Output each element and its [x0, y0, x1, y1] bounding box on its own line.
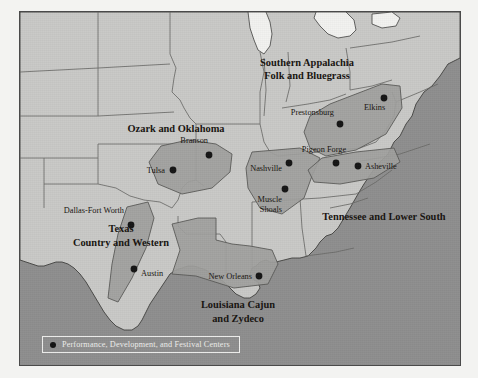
city-dot-branson[interactable] — [206, 152, 213, 159]
region-label-tennessee-lower-south: Tennessee and Lower South — [322, 211, 445, 222]
region-label-louisiana-cajun-2: and Zydeco — [212, 313, 264, 324]
city-label-muscle-shoals-2: Shoals — [260, 205, 282, 214]
map-plate: Branson Tulsa Dallas-Fort Worth Austin N… — [19, 11, 461, 366]
region-label-texas-country-2: Country and Western — [73, 237, 169, 248]
city-label-muscle-shoals-1: Muscle — [258, 195, 283, 204]
city-label-pigeon-forge: Pigeon Forge — [302, 145, 347, 154]
city-dot-muscle-shoals[interactable] — [282, 186, 289, 193]
city-dot-elkins[interactable] — [381, 95, 388, 102]
region-label-southern-appalachia-1: Southern Appalachia — [260, 57, 355, 68]
region-label-ozark-oklahoma: Ozark and Oklahoma — [128, 123, 226, 134]
region-label-texas-country-1: Texas — [108, 223, 133, 234]
map-graphic: Branson Tulsa Dallas-Fort Worth Austin N… — [20, 12, 460, 365]
legend-label: Performance, Development, and Festival C… — [62, 340, 230, 349]
city-dot-prestonsburg[interactable] — [337, 121, 344, 128]
city-dot-nashville[interactable] — [286, 160, 293, 167]
region-label-louisiana-cajun-1: Louisiana Cajun — [201, 299, 275, 310]
city-dot-new-orleans[interactable] — [256, 273, 263, 280]
city-dot-asheville[interactable] — [355, 163, 362, 170]
region-label-southern-appalachia-2: Folk and Bluegrass — [264, 70, 349, 81]
city-dot-austin[interactable] — [131, 266, 138, 273]
city-label-austin: Austin — [141, 269, 164, 278]
city-label-prestonsburg: Prestonsburg — [291, 108, 334, 117]
figure-page: Branson Tulsa Dallas-Fort Worth Austin N… — [0, 0, 478, 378]
city-dot-tulsa[interactable] — [170, 167, 177, 174]
lake-ontario — [372, 12, 400, 28]
legend: Performance, Development, and Festival C… — [42, 336, 240, 353]
city-label-new-orleans: New Orleans — [208, 272, 252, 281]
city-dot-pigeon-forge[interactable] — [333, 160, 340, 167]
city-label-dallas-fort-worth: Dallas-Fort Worth — [64, 206, 125, 215]
city-label-nashville: Nashville — [250, 164, 282, 173]
city-label-branson: Branson — [180, 136, 209, 145]
legend-filled-circle-icon — [50, 342, 56, 348]
city-label-tulsa: Tulsa — [147, 166, 165, 175]
city-label-asheville: Asheville — [365, 162, 397, 171]
city-label-elkins: Elkins — [364, 103, 385, 112]
